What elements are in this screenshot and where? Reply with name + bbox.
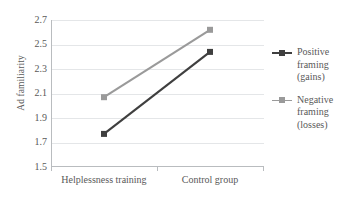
legend-label-positive-framing: Positive framing (gains) xyxy=(297,46,329,84)
data-point-marker xyxy=(207,49,213,55)
x-tick-label: Control group xyxy=(145,174,275,186)
y-tick-label: 2.7 xyxy=(20,15,47,25)
chart-legend: Positive framing (gains) Negative framin… xyxy=(272,46,353,141)
legend-label-negative-framing: Negative framing (losses) xyxy=(297,94,333,132)
y-tick-label: 1.9 xyxy=(20,113,47,123)
legend-label-line-2: framing xyxy=(297,106,333,119)
x-axis-tick-mark xyxy=(157,167,158,171)
y-tick-label: 2.3 xyxy=(20,64,47,74)
series-positive-framing xyxy=(101,49,213,137)
y-tick-label: 1.7 xyxy=(20,137,47,147)
legend-label-line-1: Positive xyxy=(297,46,329,59)
legend-label-line-1: Negative xyxy=(297,94,333,107)
legend-item-positive-framing: Positive framing (gains) xyxy=(272,46,353,84)
legend-label-line-2: framing xyxy=(297,59,329,72)
x-axis-tick-mark xyxy=(263,167,264,171)
series-lines xyxy=(51,20,264,167)
x-axis-tick-mark xyxy=(51,167,52,171)
data-point-marker xyxy=(101,131,107,137)
y-tick-label: 2.1 xyxy=(20,88,47,98)
data-point-marker xyxy=(101,94,107,100)
legend-line-marker-icon xyxy=(272,94,292,107)
y-tick-label: 2.5 xyxy=(20,39,47,49)
y-tick-label: 1.5 xyxy=(20,162,47,172)
legend-label-line-3: (gains) xyxy=(297,71,329,84)
chart-figure: Ad familiarity 2.7 2.5 2.3 2.1 1.9 1.7 1… xyxy=(0,0,353,203)
x-axis-tick-labels: Helplessness training Control group xyxy=(51,174,264,190)
plot-area xyxy=(51,20,264,167)
legend-label-line-3: (losses) xyxy=(297,119,333,132)
data-point-marker xyxy=(207,27,213,33)
legend-item-negative-framing: Negative framing (losses) xyxy=(272,94,353,132)
legend-line-marker-icon xyxy=(272,46,292,59)
y-axis-tick-labels: 2.7 2.5 2.3 2.1 1.9 1.7 1.5 xyxy=(20,0,47,203)
